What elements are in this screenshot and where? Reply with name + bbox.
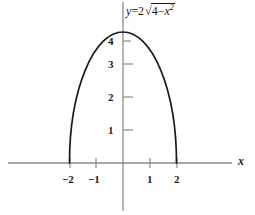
y-tick-label-2: 2 [108,92,114,103]
x-axis-label: x [238,155,244,167]
x-tick-label-2: 2 [174,174,180,185]
y-tick-label-4: 4 [108,36,114,47]
x-tick-label-neg1: −1 [88,174,100,185]
y-tick-label-3: 3 [108,59,114,70]
radicand-exponent: 2 [170,3,174,12]
equation-label: y=2√4−x2 [126,3,175,17]
x-tick-label-neg2: −2 [62,174,74,185]
radical-group: √4−x2 [144,3,175,17]
y-tick-label-1: 1 [108,125,114,136]
y-axis-ticks [123,41,133,130]
plot-canvas [0,0,255,215]
radicand: 4−x2 [151,3,175,17]
graph-figure: y=2√4−x2 4 3 2 1 −2 −1 1 2 x [0,0,255,215]
x-tick-label-1: 1 [147,174,153,185]
